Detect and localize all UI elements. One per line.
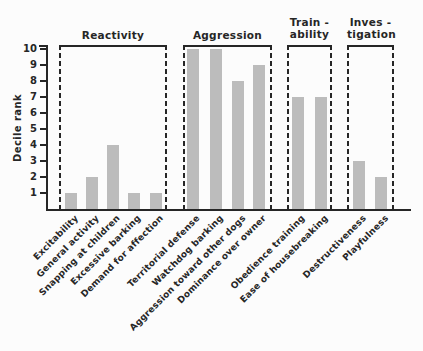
y-tick-mark-7	[40, 96, 47, 98]
group-box-left-dash-trainability	[287, 45, 289, 209]
y-tick-mark-10	[40, 48, 47, 50]
bar-playfulness	[375, 177, 387, 209]
group-box-left-dash-investigation	[347, 45, 349, 209]
group-box-left-dash-aggression	[183, 45, 185, 209]
y-tick-mark-8	[40, 80, 47, 82]
y-tick-label-10: 10	[10, 43, 37, 55]
bar-territorial-defense	[187, 49, 199, 209]
bar-aggression-toward-other-dogs	[232, 81, 244, 209]
y-tick-label-5: 5	[10, 123, 37, 135]
y-tick-label-6: 6	[10, 107, 37, 119]
y-tick-label-7: 7	[10, 91, 37, 103]
group-label-line-trainability-0: Train -	[287, 17, 332, 29]
group-box-top-aggression	[183, 45, 272, 47]
group-label-trainability: Train -ability	[287, 17, 332, 40]
group-box-right-dash-trainability	[330, 45, 332, 209]
bar-destructiveness	[353, 161, 365, 209]
bar-snapping-at-children	[107, 145, 119, 209]
bar-obedience-training	[292, 97, 304, 209]
bar-general-activity	[86, 177, 98, 209]
bar-ease-of-housebreaking	[315, 97, 327, 209]
group-box-top-trainability	[287, 45, 332, 47]
group-label-line-investigation-0: Inves -	[347, 17, 394, 29]
bar-excessive-barking	[128, 193, 140, 209]
group-box-right-dash-aggression	[270, 45, 272, 209]
y-tick-mark-5	[40, 128, 47, 130]
dog-traits-decile-bar-chart: Decile rank 12345678910 ReactivityExcita…	[0, 0, 423, 351]
y-tick-mark-2	[40, 176, 47, 178]
group-box-right-dash-reactivity	[165, 45, 167, 209]
y-tick-label-8: 8	[10, 75, 37, 87]
y-axis-top-cap	[39, 45, 48, 47]
bar-watchdog-barking	[210, 49, 222, 209]
y-tick-label-1: 1	[10, 187, 37, 199]
group-label-line-reactivity-0: Reactivity	[59, 30, 167, 42]
y-tick-mark-4	[40, 144, 47, 146]
y-tick-mark-6	[40, 112, 47, 114]
y-tick-label-4: 4	[10, 139, 37, 151]
group-box-top-reactivity	[59, 45, 167, 47]
y-tick-mark-1	[40, 192, 47, 194]
bar-demand-for-affection	[150, 193, 162, 209]
group-label-reactivity: Reactivity	[59, 30, 167, 42]
y-tick-label-3: 3	[10, 155, 37, 167]
group-label-line-trainability-1: ability	[287, 29, 332, 41]
group-label-aggression: Aggression	[183, 30, 272, 42]
group-label-line-investigation-1: tigation	[347, 29, 394, 41]
y-tick-label-2: 2	[10, 171, 37, 183]
group-label-line-aggression-0: Aggression	[183, 30, 272, 42]
x-axis-line	[46, 209, 411, 211]
group-box-top-investigation	[347, 45, 394, 47]
bar-dominance-over-owner	[253, 65, 265, 209]
y-tick-label-9: 9	[10, 59, 37, 71]
group-box-left-dash-reactivity	[59, 45, 61, 209]
bar-excitability	[65, 193, 77, 209]
y-tick-mark-9	[40, 64, 47, 66]
group-label-investigation: Inves -tigation	[347, 17, 394, 40]
group-box-right-dash-investigation	[392, 45, 394, 209]
y-tick-mark-3	[40, 160, 47, 162]
